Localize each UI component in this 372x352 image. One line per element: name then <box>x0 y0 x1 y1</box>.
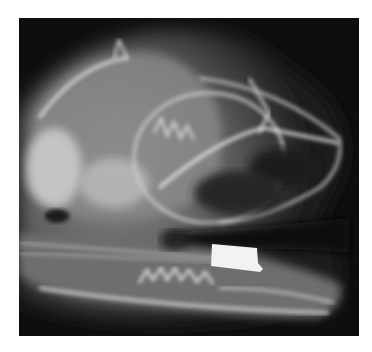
petrous-region <box>26 128 82 208</box>
skull-radiograph <box>19 18 359 336</box>
xray-image <box>19 18 359 336</box>
